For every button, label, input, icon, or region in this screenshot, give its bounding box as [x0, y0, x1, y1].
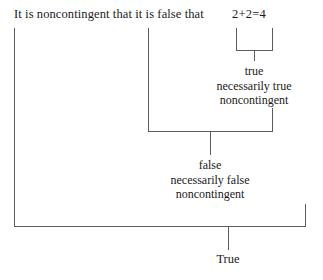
- value-block-middle: false necessarily false noncontingent: [171, 158, 250, 202]
- value-line-modal-status: necessarily false: [171, 173, 250, 188]
- root-value-label: True: [216, 253, 239, 266]
- bracket-middle-stem: [210, 131, 211, 155]
- value-block-inner: true necessarily true noncontingent: [217, 64, 292, 108]
- value-line-contingency: noncontingent: [171, 187, 250, 202]
- truth-value-tree-diagram: It is noncontingent that it is false tha…: [0, 0, 323, 280]
- bracket-inner-stem: [254, 50, 255, 61]
- bracket-outer-horizontal: [14, 226, 306, 227]
- value-line-modal-status: necessarily true: [217, 79, 292, 94]
- sentence-prefix-text: It is noncontingent that it is false tha…: [14, 8, 204, 21]
- atomic-formula-text: 2+2=4: [232, 8, 266, 21]
- bracket-middle-right-vertical: [272, 108, 273, 132]
- bracket-middle-left-vertical: [148, 28, 149, 132]
- bracket-inner-right-vertical: [272, 28, 273, 51]
- bracket-outer-right-vertical: [305, 204, 306, 227]
- bracket-outer-left-vertical: [14, 28, 15, 227]
- bracket-outer-stem: [228, 226, 229, 250]
- value-line-truth-value: true: [217, 64, 292, 79]
- value-line-contingency: noncontingent: [217, 93, 292, 108]
- bracket-inner-left-vertical: [236, 28, 237, 51]
- value-line-truth-value: false: [171, 158, 250, 173]
